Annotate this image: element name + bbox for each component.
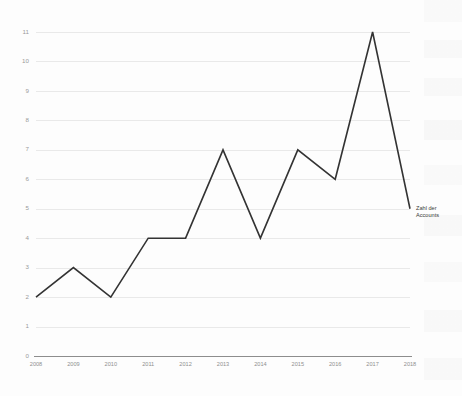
y-axis-tick-label: 4: [26, 234, 30, 241]
series-zahl-der-accounts: [36, 32, 410, 297]
x-axis-tick-label: 2010: [105, 361, 117, 367]
y-axis-tick-label: 8: [26, 116, 30, 123]
x-axis-tick-label: 2014: [254, 361, 266, 367]
x-axis-tick-label: 2016: [329, 361, 341, 367]
x-axis-tick-label: 2011: [142, 361, 154, 367]
y-axis-tick-label: 1: [26, 322, 30, 329]
y-axis-tick-label: 11: [23, 28, 30, 35]
y-axis-tick-label: 2: [26, 293, 30, 300]
x-axis-tick-label: 2015: [292, 361, 304, 367]
series-line-path: [36, 32, 410, 297]
x-axis-tick-labels: 2008200920102011201220132014201520162017…: [30, 361, 416, 367]
x-axis-tick-label: 2013: [217, 361, 229, 367]
y-axis-tick-label: 6: [26, 175, 30, 182]
x-axis-tick-label: 2018: [404, 361, 416, 367]
chart-page: 01234567891011 2008200920102011201220132…: [0, 0, 462, 396]
y-axis-tick-label: 3: [26, 263, 30, 270]
y-axis-tick-label: 10: [22, 57, 29, 64]
x-axis-tick-label: 2017: [366, 361, 378, 367]
y-axis-tick-labels: 01234567891011: [22, 28, 29, 359]
gridlines-group: [36, 33, 410, 357]
x-axis-tick-label: 2012: [179, 361, 191, 367]
series-annotation-line-2: Accounts: [416, 212, 439, 219]
series-annotation-label: Zahl der Accounts: [416, 205, 439, 220]
y-axis-tick-label: 7: [26, 145, 30, 152]
x-axis-tick-label: 2009: [67, 361, 79, 367]
y-axis-tick-label: 0: [26, 352, 30, 359]
y-axis-tick-label: 9: [26, 87, 30, 94]
x-axis-tick-label: 2008: [30, 361, 42, 367]
y-axis-tick-label: 5: [26, 204, 30, 211]
line-chart: 01234567891011 2008200920102011201220132…: [0, 0, 462, 396]
series-annotation-line-1: Zahl der: [416, 205, 439, 212]
